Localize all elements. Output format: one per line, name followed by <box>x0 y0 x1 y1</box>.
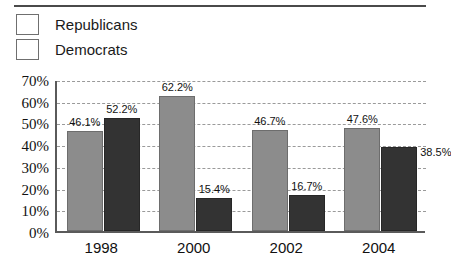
legend-swatch-democrats <box>16 39 39 60</box>
y-axis-tick-label: 0% <box>29 225 49 242</box>
bar-democrats-1998 <box>104 118 140 231</box>
x-axis-tick-label: 2000 <box>177 239 210 256</box>
bar-group: 46.7%16.7% <box>242 81 335 231</box>
bar-democrats-2004 <box>381 147 417 231</box>
x-axis-tick-label: 2002 <box>270 239 303 256</box>
bar-value-label: 62.2% <box>162 82 193 93</box>
chart-legend: Republicans Democrats <box>16 12 138 62</box>
plot-area-wrapper: 0%10%20%30%40%50%60%70% 46.1%52.2%62.2%1… <box>0 74 440 259</box>
y-axis-tick-label: 30% <box>22 159 50 176</box>
legend-item-democrats: Democrats <box>16 37 138 61</box>
y-axis-tick-label: 70% <box>22 73 50 90</box>
bar-republicans-1998 <box>67 131 103 231</box>
bar-democrats-2000 <box>196 198 232 231</box>
bar-value-label: 46.7% <box>254 116 285 127</box>
legend-swatch-republicans <box>16 14 39 35</box>
y-axis-tick-label: 10% <box>22 203 50 220</box>
x-axis: 1998200020022004 <box>55 235 425 259</box>
y-axis-tick-label: 40% <box>22 138 50 155</box>
bar-republicans-2002 <box>252 130 288 231</box>
bar-value-label: 38.5% <box>420 147 451 158</box>
x-axis-tick-label: 1998 <box>85 239 118 256</box>
bar-value-label: 46.1% <box>69 117 100 128</box>
y-axis: 0%10%20%30%40%50%60%70% <box>0 74 55 233</box>
bars-layer: 46.1%52.2%62.2%15.4%46.7%16.7%47.6%38.5% <box>57 81 425 231</box>
y-axis-tick-label: 60% <box>22 94 50 111</box>
y-axis-tick-label: 20% <box>22 181 50 198</box>
top-divider <box>14 5 426 7</box>
bar-republicans-2000 <box>159 96 195 231</box>
y-axis-tick-label: 50% <box>22 116 50 133</box>
bar-group: 47.6%38.5% <box>335 81 428 231</box>
bar-republicans-2004 <box>344 128 380 231</box>
x-axis-tick-label: 2004 <box>362 239 395 256</box>
bar-democrats-2002 <box>289 195 325 231</box>
bar-value-label: 52.2% <box>106 104 137 115</box>
bar-group: 46.1%52.2% <box>57 81 150 231</box>
bar-value-label: 15.4% <box>199 184 230 195</box>
legend-label-democrats: Democrats <box>55 41 128 58</box>
legend-label-republicans: Republicans <box>55 16 138 33</box>
plot-area: 46.1%52.2%62.2%15.4%46.7%16.7%47.6%38.5% <box>55 81 425 233</box>
bar-group: 62.2%15.4% <box>150 81 243 231</box>
bar-value-label: 16.7% <box>291 181 322 192</box>
legend-item-republicans: Republicans <box>16 12 138 36</box>
bar-value-label: 47.6% <box>347 114 378 125</box>
